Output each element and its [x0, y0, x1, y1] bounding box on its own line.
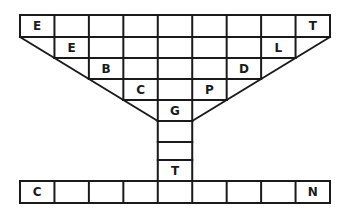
- letter-r3c5: P: [205, 83, 214, 97]
- letter-stem-t: T: [171, 164, 180, 178]
- letter-bottom-c: C: [33, 185, 42, 199]
- letter-r2c2: B: [102, 62, 111, 76]
- letter-r1c1: E: [68, 41, 76, 55]
- letter-r0c0: E: [33, 19, 41, 33]
- letter-r3c3: C: [136, 83, 145, 97]
- goblet-word-grid: E T E L B D C P G T C N: [0, 0, 346, 211]
- letter-r1c7: L: [274, 41, 282, 55]
- letter-r0c8: T: [309, 19, 318, 33]
- letter-r4c4: G: [170, 104, 180, 118]
- grid-letters: E T E L B D C P G T C N: [33, 19, 318, 199]
- letter-r2c6: D: [239, 62, 249, 76]
- letter-bottom-n: N: [308, 185, 318, 199]
